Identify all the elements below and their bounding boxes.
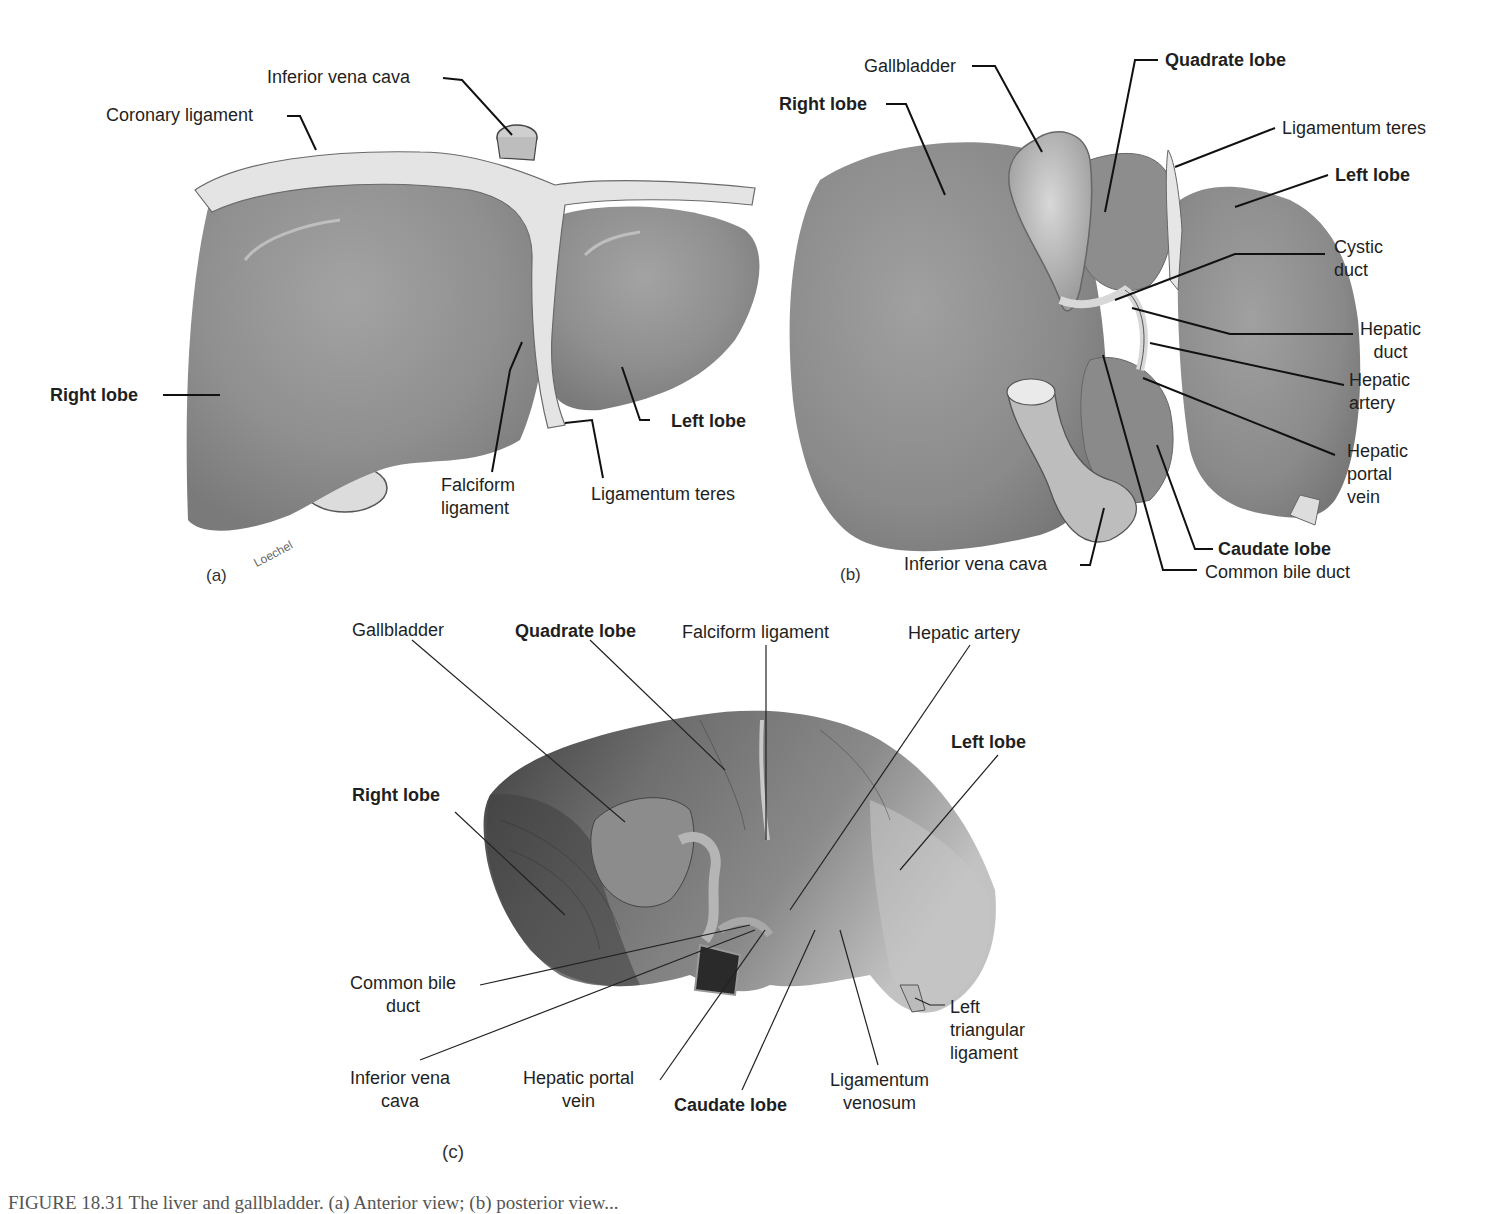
figure-caption: FIGURE 18.31 The liver and gallbladder. … bbox=[8, 1192, 619, 1214]
c-label-common-bile-duct: Common bile duct bbox=[350, 972, 456, 1018]
b-label-hepatic-portal-vein: Hepatic portal vein bbox=[1347, 440, 1408, 509]
c-label-hepatic-artery: Hepatic artery bbox=[908, 622, 1020, 645]
panel-a-drawing bbox=[187, 125, 760, 531]
c-label-quadrate-lobe: Quadrate lobe bbox=[515, 620, 636, 643]
panel-c-tag: (c) bbox=[442, 1141, 464, 1163]
a-label-ligamentum-teres: Ligamentum teres bbox=[591, 483, 735, 506]
panel-a-tag: (a) bbox=[206, 566, 227, 586]
b-label-ligamentum-teres: Ligamentum teres bbox=[1282, 117, 1426, 140]
b-label-caudate-lobe: Caudate lobe bbox=[1218, 538, 1331, 561]
b-label-gallbladder: Gallbladder bbox=[864, 55, 956, 78]
c-label-right-lobe: Right lobe bbox=[352, 784, 440, 807]
left-lobe-shape bbox=[549, 207, 759, 411]
b-label-cystic-duct: Cystic duct bbox=[1334, 236, 1383, 282]
c-label-hepatic-portal-vein: Hepatic portal vein bbox=[523, 1067, 634, 1113]
c-label-inferior-vena-cava: Inferior vena cava bbox=[350, 1067, 450, 1113]
b-label-right-lobe: Right lobe bbox=[779, 93, 867, 116]
b-label-inferior-vena-cava: Inferior vena cava bbox=[904, 553, 1047, 576]
c-label-falciform-ligament: Falciform ligament bbox=[682, 621, 829, 644]
b-label-hepatic-artery: Hepatic artery bbox=[1349, 369, 1410, 415]
a-label-inferior-vena-cava: Inferior vena cava bbox=[267, 66, 410, 89]
b-label-hepatic-duct: Hepatic duct bbox=[1360, 318, 1421, 364]
a-label-coronary-ligament: Coronary ligament bbox=[106, 104, 253, 127]
b-left-lobe-shape bbox=[1178, 187, 1361, 518]
a-label-left-lobe: Left lobe bbox=[671, 410, 746, 433]
c-label-left-lobe: Left lobe bbox=[951, 731, 1026, 754]
c-label-ligamentum-venosum: Ligamentum venosum bbox=[830, 1069, 929, 1115]
c-label-gallbladder: Gallbladder bbox=[352, 619, 444, 642]
a-label-right-lobe: Right lobe bbox=[50, 384, 138, 407]
panel-b-tag: (b) bbox=[840, 565, 861, 585]
a-label-falciform-ligament: Falciform ligament bbox=[441, 474, 515, 520]
b-label-quadrate-lobe: Quadrate lobe bbox=[1165, 49, 1286, 72]
panel-b-drawing bbox=[790, 132, 1361, 551]
b-label-common-bile-duct: Common bile duct bbox=[1205, 561, 1350, 584]
b-label-left-lobe: Left lobe bbox=[1335, 164, 1410, 187]
c-label-left-triangular-ligament: Left triangular ligament bbox=[950, 996, 1025, 1065]
c-label-caudate-lobe: Caudate lobe bbox=[674, 1094, 787, 1117]
